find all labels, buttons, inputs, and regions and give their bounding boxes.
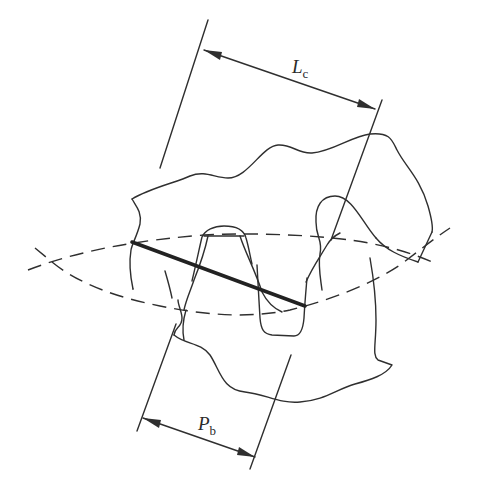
line-of-action (132, 242, 305, 306)
lc-label-sub: c (303, 66, 309, 81)
pb-label-sub: b (210, 423, 217, 438)
lc-label-main: L (291, 56, 303, 77)
lower-gear-tooth (183, 226, 282, 340)
addendum-circles (28, 228, 450, 315)
svg-text:Lc: Lc (291, 56, 309, 81)
pb-label-main: P (197, 413, 210, 434)
svg-text:Pb: Pb (197, 413, 216, 438)
length-of-contact-dimension: Lc (160, 20, 382, 240)
gear-contact-diagram: Lc Pb (0, 0, 477, 492)
upper-gear (130, 134, 432, 290)
